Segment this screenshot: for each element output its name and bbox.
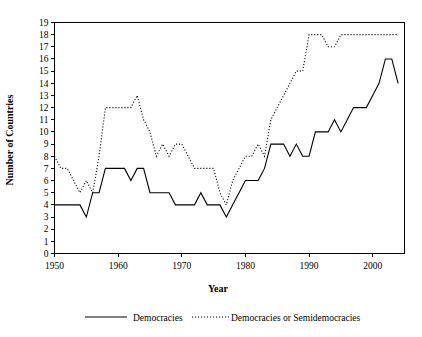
chart-legend: Democracies Democracies or Semidemocraci… xyxy=(85,313,361,323)
y-tick-label-18: 18 xyxy=(39,30,49,40)
series-line-democracies-or-semidemocracies xyxy=(55,35,399,205)
y-axis-title: Number of Countries xyxy=(4,94,15,185)
legend-label-democracies: Democracies xyxy=(133,313,183,323)
line-chart: 012345678910111213141516171819 195019601… xyxy=(0,0,422,337)
y-tick-label-16: 16 xyxy=(39,54,49,64)
y-axis-ticks xyxy=(51,23,55,254)
y-tick-label-8: 8 xyxy=(44,152,49,162)
x-axis-ticks xyxy=(55,254,373,258)
x-tick-label-2000: 2000 xyxy=(363,261,382,271)
y-tick-label-11: 11 xyxy=(39,115,48,125)
plot-border xyxy=(55,23,405,254)
series-line-democracies xyxy=(55,59,399,217)
x-axis-title: Year xyxy=(208,283,229,294)
x-tick-label-1960: 1960 xyxy=(109,261,128,271)
y-tick-label-6: 6 xyxy=(44,176,49,186)
y-tick-label-13: 13 xyxy=(39,91,49,101)
y-tick-label-2: 2 xyxy=(44,224,49,234)
x-tick-label-1990: 1990 xyxy=(300,261,319,271)
chart-figure: 012345678910111213141516171819 195019601… xyxy=(0,0,422,337)
x-tick-label-1950: 1950 xyxy=(45,261,64,271)
y-tick-label-12: 12 xyxy=(39,103,49,113)
x-tick-label-1980: 1980 xyxy=(236,261,255,271)
x-tick-label-1970: 1970 xyxy=(172,261,191,271)
y-tick-label-5: 5 xyxy=(44,188,49,198)
y-tick-label-17: 17 xyxy=(39,42,49,52)
y-axis-tick-labels: 012345678910111213141516171819 xyxy=(39,18,49,259)
legend-label-democracies-or-semidemocracies: Democracies or Semidemocracies xyxy=(231,313,361,323)
y-tick-label-10: 10 xyxy=(39,127,49,137)
y-tick-label-0: 0 xyxy=(44,249,49,259)
plot-frame xyxy=(55,23,405,254)
y-tick-label-9: 9 xyxy=(44,139,49,149)
y-tick-label-1: 1 xyxy=(44,237,49,247)
y-tick-label-19: 19 xyxy=(39,18,49,28)
y-tick-label-7: 7 xyxy=(44,164,49,174)
y-tick-label-3: 3 xyxy=(44,212,49,222)
series-group xyxy=(55,35,399,217)
y-tick-label-14: 14 xyxy=(39,79,49,89)
y-tick-label-4: 4 xyxy=(44,200,49,210)
x-axis-tick-labels: 195019601970198019902000 xyxy=(45,261,382,271)
y-tick-label-15: 15 xyxy=(39,66,49,76)
